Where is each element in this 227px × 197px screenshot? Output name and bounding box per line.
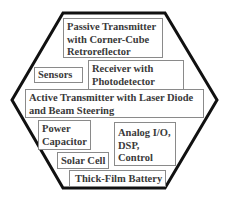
sensors-label: Sensors	[38, 69, 79, 82]
analog-line-1: Analog I/O,	[118, 127, 172, 140]
passive-line-1: Passive Transmitter	[67, 21, 159, 34]
receiver-box: Receiver with Photodetector	[88, 60, 184, 90]
analog-io-box: Analog I/O, DSP, Control	[114, 122, 176, 166]
active-line-2: and Beam Steering	[29, 105, 200, 118]
active-line-1: Active Transmitter with Laser Diode	[29, 92, 200, 105]
analog-line-3: Control	[118, 152, 172, 165]
active-transmitter-box: Active Transmitter with Laser Diode and …	[25, 89, 204, 118]
battery-label: Thick-Film Battery	[75, 173, 162, 186]
power-line-2: Capacitor	[42, 136, 87, 149]
solar-label: Solar Cell	[61, 155, 105, 168]
thick-film-battery-box: Thick-Film Battery	[69, 170, 166, 187]
power-line-1: Power	[42, 123, 87, 136]
power-capacitor-box: Power Capacitor	[38, 120, 91, 150]
receiver-line-1: Receiver with	[92, 63, 180, 76]
solar-cell-box: Solar Cell	[57, 152, 109, 169]
receiver-line-2: Photodetector	[92, 76, 180, 89]
sensors-box: Sensors	[34, 67, 83, 83]
analog-line-2: DSP,	[118, 140, 172, 153]
passive-transmitter-box: Passive Transmitter with Corner-Cube Ret…	[63, 18, 163, 58]
passive-line-2: with Corner-Cube	[67, 34, 159, 47]
passive-line-3: Retroreflector	[67, 46, 159, 59]
